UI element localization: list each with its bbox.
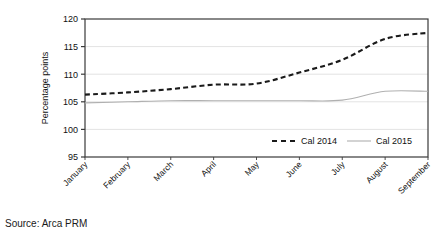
x-tick-label: March <box>151 159 175 183</box>
x-axis: JanuaryFebruaryMarchAprilMayJuneJulyAugu… <box>61 157 433 196</box>
x-tick-label: May <box>242 159 261 178</box>
source-note: Source: Arca PRM <box>5 218 87 229</box>
legend-label-1: Cal 2014 <box>301 136 337 146</box>
chart-figure: 95100105110115120Percentage pointsJanuar… <box>0 0 443 245</box>
y-axis: 95100105110115120 <box>63 14 85 162</box>
chart-legend: Cal 2014Cal 2015 <box>272 136 412 146</box>
y-tick-label: 120 <box>63 14 78 24</box>
x-tick-label: July <box>329 159 347 177</box>
series-line-1 <box>85 33 428 95</box>
x-tick-label: April <box>199 159 218 178</box>
y-tick-label: 110 <box>64 70 78 80</box>
x-tick-label: February <box>101 159 133 191</box>
legend-label-2: Cal 2015 <box>376 136 412 146</box>
x-tick-label: January <box>61 159 90 188</box>
y-tick-label: 95 <box>68 152 78 162</box>
grid-lines <box>85 47 428 130</box>
series-group <box>85 33 428 103</box>
y-tick-label: 100 <box>63 125 78 135</box>
y-tick-label: 115 <box>64 42 78 52</box>
x-tick-label: June <box>284 159 304 179</box>
line-chart: 95100105110115120Percentage pointsJanuar… <box>0 0 443 245</box>
x-tick-label: August <box>364 159 390 185</box>
y-tick-label: 105 <box>63 97 78 107</box>
y-axis-title: Percentage points <box>40 51 50 124</box>
x-tick-label: September <box>396 159 433 196</box>
